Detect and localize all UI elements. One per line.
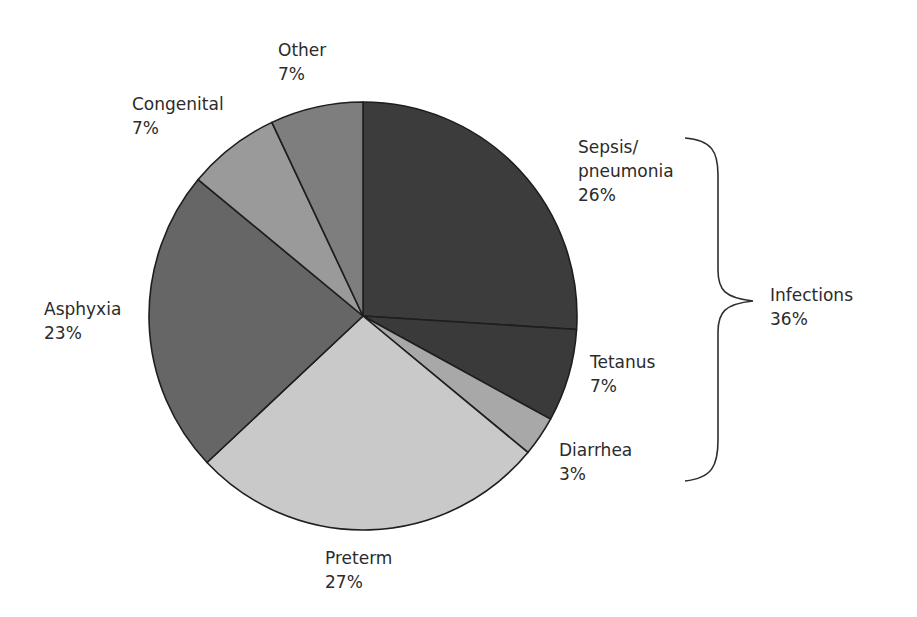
label-preterm-pct: 27% bbox=[325, 570, 392, 594]
label-asphyxia-name: Asphyxia bbox=[44, 297, 121, 321]
label-tetanus: Tetanus 7% bbox=[590, 350, 655, 398]
label-other: Other 7% bbox=[278, 38, 326, 86]
label-congenital-pct: 7% bbox=[132, 116, 224, 140]
label-diarrhea-pct: 3% bbox=[559, 462, 632, 486]
label-infections-name: Infections bbox=[770, 283, 853, 307]
label-diarrhea-name: Diarrhea bbox=[559, 438, 632, 462]
label-diarrhea: Diarrhea 3% bbox=[559, 438, 632, 486]
label-preterm: Preterm 27% bbox=[325, 546, 392, 594]
label-asphyxia: Asphyxia 23% bbox=[44, 297, 121, 345]
label-other-name: Other bbox=[278, 38, 326, 62]
label-congenital: Congenital 7% bbox=[132, 92, 224, 140]
label-sepsis-pct: 26% bbox=[578, 183, 674, 207]
label-sepsis-name-2: pneumonia bbox=[578, 159, 674, 183]
label-tetanus-name: Tetanus bbox=[590, 350, 655, 374]
label-sepsis-name: Sepsis/ bbox=[578, 135, 674, 159]
label-preterm-name: Preterm bbox=[325, 546, 392, 570]
label-tetanus-pct: 7% bbox=[590, 374, 655, 398]
label-asphyxia-pct: 23% bbox=[44, 321, 121, 345]
label-other-pct: 7% bbox=[278, 62, 326, 86]
label-sepsis: Sepsis/ pneumonia 26% bbox=[578, 135, 674, 207]
label-infections-pct: 36% bbox=[770, 307, 853, 331]
label-infections: Infections 36% bbox=[770, 283, 853, 331]
label-congenital-name: Congenital bbox=[132, 92, 224, 116]
